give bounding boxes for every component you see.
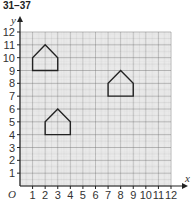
y-tick-label: 6 <box>9 103 15 115</box>
x-tick-label: 12 <box>165 189 177 201</box>
x-tick-label: 3 <box>55 189 61 201</box>
y-tick-label: 10 <box>3 52 15 64</box>
y-axis-arrow-icon <box>17 16 23 22</box>
y-tick-label: 4 <box>9 129 15 141</box>
x-tick-label: 10 <box>140 189 152 201</box>
x-axis-label: x <box>184 172 190 184</box>
y-tick-label: 1 <box>9 167 15 179</box>
coordinate-grid: 123456789101112123456789101112Oxy <box>0 0 192 202</box>
y-tick-label: 12 <box>3 26 15 38</box>
y-tick-label: 5 <box>9 116 15 128</box>
y-tick-label: 7 <box>9 90 15 102</box>
y-tick-label: 9 <box>9 65 15 77</box>
x-tick-label: 11 <box>153 189 164 201</box>
x-tick-label: 4 <box>67 189 73 201</box>
y-tick-label: 2 <box>9 154 15 166</box>
x-tick-label: 9 <box>130 189 136 201</box>
x-tick-label: 2 <box>42 189 48 201</box>
y-tick-label: 3 <box>9 142 15 154</box>
y-tick-label: 8 <box>9 77 15 89</box>
origin-label: O <box>8 188 16 200</box>
x-tick-label: 7 <box>105 189 111 201</box>
x-tick-label: 1 <box>30 189 36 201</box>
x-tick-label: 8 <box>118 189 124 201</box>
x-tick-label: 6 <box>92 189 98 201</box>
x-tick-label: 5 <box>80 189 86 201</box>
y-tick-label: 11 <box>4 39 15 51</box>
y-axis-label: y <box>10 14 16 26</box>
